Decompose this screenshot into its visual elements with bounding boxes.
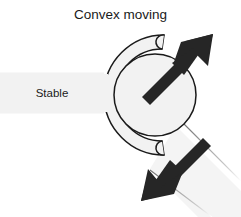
stable-label: Stable bbox=[36, 87, 69, 99]
diagram-canvas: Convex moving Stable bbox=[0, 0, 241, 217]
page-title: Convex moving bbox=[74, 7, 167, 22]
bar-cup-junction bbox=[92, 74, 108, 112]
joint-mobilization-diagram: Convex moving Stable bbox=[0, 0, 241, 217]
